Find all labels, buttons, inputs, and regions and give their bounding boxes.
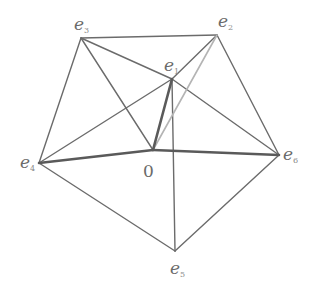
edge-e4-e3 [39,38,81,163]
vertex-subscript-e6: 6 [293,156,298,165]
vertex-label-e1: e1 [164,55,179,76]
vertex-label-e5: e5 [170,258,185,279]
vertex-subscript-e3: 3 [84,26,89,35]
vertex-subscript-e1: 1 [174,67,179,76]
edge-e3-e2 [81,35,217,38]
origin-label: 0 [143,161,154,181]
edge-e2-e6 [217,35,279,155]
edges-group [39,35,279,251]
vertex-label-e2: e2 [218,11,233,32]
edge-e6-e5 [175,155,279,251]
vector-graph-diagram: e1e2e3e4e5e60 [0,0,310,282]
edge-e1-e5 [172,79,175,251]
vertex-label-e4: e4 [20,152,35,173]
vertex-label-e3: e3 [74,14,89,35]
vertex-label-e6: e6 [283,144,298,165]
edge-e2-o [153,35,217,150]
vertex-subscript-e5: 5 [180,270,185,279]
vertex-subscript-e2: 2 [228,23,233,32]
edge-o-e6 [153,150,279,155]
edge-e5-e4 [39,163,175,251]
labels-group: e1e2e3e4e5e60 [20,11,298,279]
edge-e1-e6 [172,79,279,155]
vertex-subscript-e4: 4 [30,164,35,173]
